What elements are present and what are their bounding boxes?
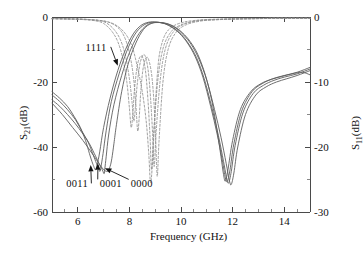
y-right-tick-label--20: -20 bbox=[314, 142, 344, 153]
x-tick-label-14: 14 bbox=[274, 216, 294, 227]
curve-s11-0001 bbox=[52, 18, 310, 166]
state-label-1111: 1111 bbox=[86, 43, 107, 54]
x-tick-label-8: 8 bbox=[119, 216, 139, 227]
y-left-symbol: S bbox=[17, 134, 29, 140]
state-label-0000: 0000 bbox=[131, 179, 153, 190]
leader-line-1111 bbox=[111, 47, 116, 60]
y-axis-title-left: S21(dB) bbox=[18, 106, 29, 140]
y-left-tick-label--20: -20 bbox=[14, 77, 48, 88]
figure-container: 68101214 0-20-40-60 0-10-20-30 111100110… bbox=[0, 0, 363, 254]
y-right-tick-label-0: 0 bbox=[314, 12, 344, 23]
state-label-0011: 0011 bbox=[66, 179, 88, 190]
x-axis-title: Frequency (GHz) bbox=[150, 231, 227, 242]
y-left-subscript: 21 bbox=[23, 126, 32, 134]
x-tick-label-10: 10 bbox=[171, 216, 191, 227]
y-left-tick-label--40: -40 bbox=[14, 142, 48, 153]
x-tick-label-12: 12 bbox=[223, 216, 243, 227]
y-right-symbol: S bbox=[349, 144, 361, 150]
y-left-tick-label--60: -60 bbox=[14, 207, 48, 218]
y-right-subscript: 11 bbox=[355, 136, 363, 144]
y-axis-title-right: S11(dB) bbox=[350, 116, 361, 150]
x-tick-label-6: 6 bbox=[68, 216, 88, 227]
state-label-0001: 0001 bbox=[100, 179, 122, 190]
y-left-tick-label-0: 0 bbox=[14, 12, 48, 23]
y-right-unit: (dB) bbox=[349, 116, 361, 136]
arrowhead-1111 bbox=[113, 59, 118, 66]
arrowhead-0011 bbox=[88, 165, 93, 172]
y-right-tick-label--10: -10 bbox=[314, 77, 344, 88]
y-right-tick-label--30: -30 bbox=[314, 207, 344, 218]
y-left-unit: (dB) bbox=[17, 106, 29, 126]
